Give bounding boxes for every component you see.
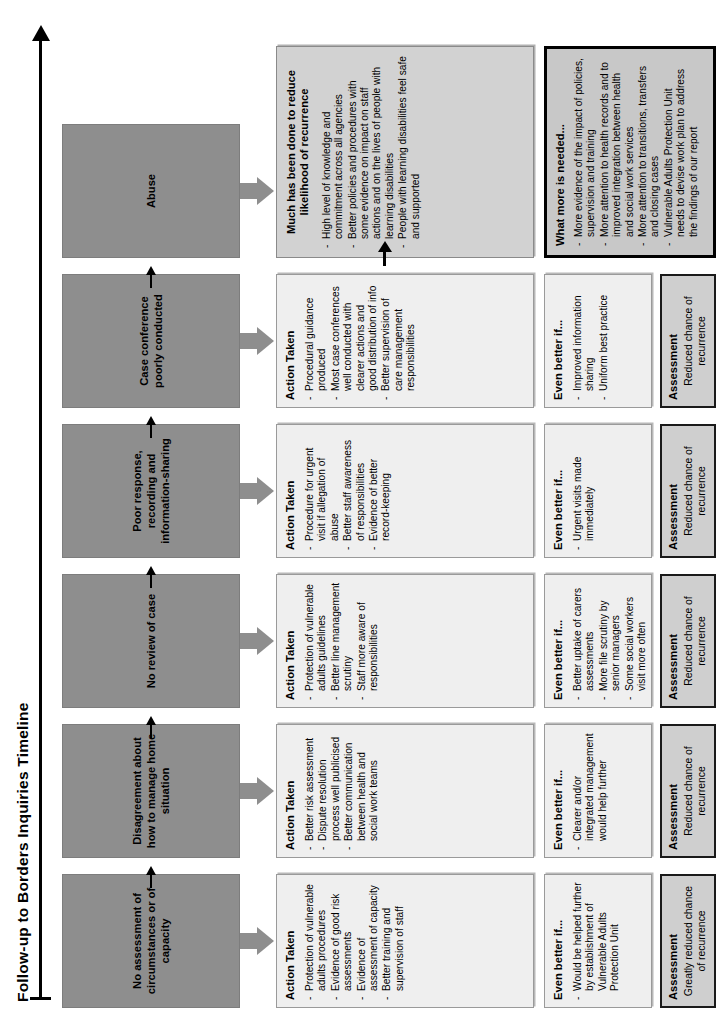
action-taken-list-1: Protection of vulnerable adults procedur… (304, 882, 406, 1000)
assessment-title-1: Assessment (667, 882, 680, 1000)
stage-label-4: Poor response, recording and information… (130, 431, 172, 551)
list-item: Protection of vulnerable adults procedur… (304, 882, 329, 1000)
stage-connector-arrow-3-4 (146, 566, 156, 588)
action-taken-list-5: Procedural guidance produced Most case c… (304, 282, 418, 400)
summary-list: High level of knowledge and commitment a… (321, 56, 422, 248)
list-item: Protection of vulnerable adults guidelin… (304, 582, 329, 700)
stage-connector-arrow-5-abuse (146, 266, 156, 288)
action-taken-title-4: Action Taken (284, 432, 297, 550)
list-item: Vulnerable Adults Protection Unit needs … (663, 58, 700, 246)
borders-inquiries-timeline-diagram: Follow-up to Borders Inquiries Timeline … (0, 0, 720, 1016)
list-item: Improved information sharing (572, 282, 597, 400)
action-taken-title-1: Action Taken (284, 882, 297, 1000)
list-item: Better supervision of care management re… (380, 282, 417, 400)
summary-title: Much has been done to reduce likelihood … (285, 56, 312, 248)
summary-panel: Much has been done to reduce likelihood … (276, 46, 534, 258)
assessment-value-1: Greatly reduced chance of recurrence (683, 882, 708, 1000)
stage-box-abuse: Abuse (62, 124, 240, 258)
even-better-if-title-4: Even better if... (552, 432, 565, 550)
stage-column-5: Case conference poorly conducted Action … (48, 266, 716, 416)
stage-box-4: Poor response, recording and information… (62, 424, 240, 558)
summary-to-needed-arrow (378, 240, 392, 266)
action-taken-title-3: Action Taken (284, 582, 297, 700)
stage-column-abuse: Abuse Much has been done to reduce likel… (48, 30, 716, 266)
even-better-if-panel-1: Even better if... Would be helped furthe… (544, 874, 652, 1008)
what-more-is-needed-list: More evidence of the impact of policies,… (573, 58, 700, 246)
stage-connector-arrow-2-3 (146, 716, 156, 738)
action-taken-title-2: Action Taken (284, 732, 297, 850)
assessment-panel-3: Assessment Reduced chance of recurrence (660, 574, 716, 708)
even-better-if-list-1: Would be helped further by establishment… (572, 882, 622, 1000)
list-item: Uniform best practice (598, 282, 610, 400)
stage-column-4: Poor response, recording and information… (48, 416, 716, 566)
even-better-if-title-5: Even better if... (552, 282, 565, 400)
list-item: Procedure for urgent visit if allegation… (304, 432, 341, 550)
list-item: More file scrutiny by senior managers (598, 582, 623, 700)
stage-columns: No assessment of circumstances or of cap… (48, 0, 716, 1016)
list-item: Better risk assessment (304, 732, 316, 850)
list-item: More attention to health records and to … (599, 58, 636, 246)
action-taken-title-5: Action Taken (284, 282, 297, 400)
assessment-panel-4: Assessment Reduced chance of recurrence (660, 424, 716, 558)
stage-box-3: No review of case (62, 574, 240, 708)
stage-label-3: No review of case (144, 594, 158, 689)
action-taken-panel-2: Action Taken Better risk assessment Disp… (276, 724, 534, 858)
action-taken-panel-3: Action Taken Protection of vulnerable ad… (276, 574, 534, 708)
even-better-if-title-1: Even better if... (552, 882, 565, 1000)
even-better-if-list-3: Better uptake of carers assessments More… (572, 582, 648, 700)
assessment-value-4: Reduced chance of recurrence (683, 432, 708, 550)
stage-column-3: No review of case Action Taken Protectio… (48, 566, 716, 716)
even-better-if-panel-2: Even better if... Clearer and/or integra… (544, 724, 652, 858)
even-better-if-panel-4: Even better if... Urgent visits made imm… (544, 424, 652, 558)
even-better-if-title-2: Even better if... (552, 732, 565, 850)
list-item: Staff more aware of responsibilities (356, 582, 381, 700)
even-better-if-list-2: Clearer and/or integrated management wou… (572, 732, 609, 850)
action-taken-list-2: Better risk assessment Dispute resolutio… (304, 732, 380, 850)
even-better-if-panel-3: Even better if... Better uptake of carer… (544, 574, 652, 708)
assessment-title-5: Assessment (667, 282, 680, 400)
stage-box-2: Disagreement about how to manage home si… (62, 724, 240, 858)
list-item: Better staff awareness of responsibiliti… (342, 432, 367, 550)
list-item: Better training and supervision of staff (381, 882, 406, 1000)
assessment-value-5: Reduced chance of recurrence (683, 282, 708, 400)
list-item: Procedural guidance produced (304, 282, 329, 400)
stage-connector-arrow-1-2 (146, 866, 156, 888)
even-better-if-panel-5: Even better if... Improved information s… (544, 274, 652, 408)
list-item: Would be helped further by establishment… (572, 882, 622, 1000)
stage-to-action-arrow-1 (240, 927, 274, 955)
list-item: Evidence of assessment of capacity (356, 882, 381, 1000)
stage-label-abuse: Abuse (144, 174, 158, 208)
list-item: High level of knowledge and commitment a… (321, 56, 346, 248)
list-item: People with learning disabilities feel s… (397, 56, 422, 248)
list-item: Most case conferences well conducted wit… (330, 282, 380, 400)
stage-column-1: No assessment of circumstances or of cap… (48, 866, 716, 1016)
assessment-panel-2: Assessment Reduced chance of recurrence (660, 724, 716, 858)
list-item: Better uptake of carers assessments (572, 582, 597, 700)
list-item: Better communication between health and … (343, 732, 380, 850)
assessment-panel-1: Assessment Greatly reduced chance of rec… (660, 874, 716, 1008)
assessment-panel-5: Assessment Reduced chance of recurrence (660, 274, 716, 408)
assessment-title-2: Assessment (667, 732, 680, 850)
list-item: More attention to transitions, transfers… (637, 58, 662, 246)
list-item: Clearer and/or integrated management wou… (572, 732, 609, 850)
assessment-value-2: Reduced chance of recurrence (683, 732, 708, 850)
stage-to-summary-arrow (240, 177, 274, 205)
list-item: Better policies and procedures with some… (347, 56, 397, 248)
even-better-if-title-3: Even better if... (552, 582, 565, 700)
stage-to-action-arrow-5 (240, 327, 274, 355)
action-taken-panel-1: Action Taken Protection of vulnerable ad… (276, 874, 534, 1008)
list-item: Dispute resolution process well publicis… (317, 732, 342, 850)
list-item: Evidence of better record-keeping (368, 432, 393, 550)
assessment-title-3: Assessment (667, 582, 680, 700)
stage-label-5: Case conference poorly conducted (137, 281, 165, 401)
stage-column-2: Disagreement about how to manage home si… (48, 716, 716, 866)
stage-to-action-arrow-3 (240, 627, 274, 655)
stage-label-1: No assessment of circumstances or of cap… (130, 881, 172, 1001)
rotated-diagram-canvas: Follow-up to Borders Inquiries Timeline … (0, 0, 720, 1016)
stage-connector-arrow-4-5 (146, 416, 156, 438)
action-taken-list-4: Procedure for urgent visit if allegation… (304, 432, 393, 550)
action-taken-panel-5: Action Taken Procedural guidance produce… (276, 274, 534, 408)
assessment-value-3: Reduced chance of recurrence (683, 582, 708, 700)
stage-label-2: Disagreement about how to manage home si… (130, 731, 172, 851)
list-item: More evidence of the impact of policies,… (573, 58, 598, 246)
